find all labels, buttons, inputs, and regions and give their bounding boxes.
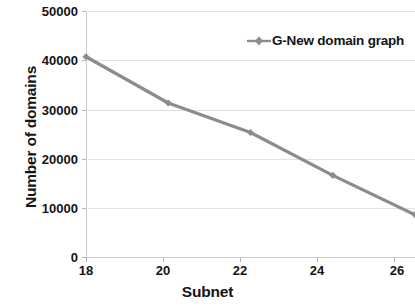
series-markers [82,53,415,218]
legend-label-g-new-domain-graph: G-New domain graph [272,33,404,48]
line-chart: Number of domains 50000 40000 30000 2000… [0,0,415,307]
chart-legend: G-New domain graph [246,33,404,48]
legend-marker-icon [246,35,272,47]
x-axis-title: Subnet [0,283,415,301]
